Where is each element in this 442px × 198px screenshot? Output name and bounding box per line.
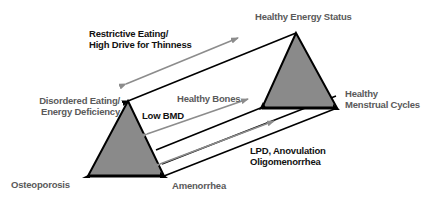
healthy-energy-status-label: Healthy Energy Status [255,11,352,22]
restrictive-eating-label: Restrictive Eating/ High Drive for Thinn… [89,28,192,50]
healthy-menstrual-line2: Menstrual Cycles [345,99,420,110]
right-tri-right-arrow-icon [333,104,340,110]
osteoporosis-label: Osteoporosis [11,179,70,190]
disordered-eating-label: Disordered Eating/ Energy Deficiency [22,95,120,117]
lpd-line2: Oligomenorrhea [250,156,326,167]
low-bmd-label: Low BMD [142,110,184,121]
restrictive-eating-line2: High Drive for Thinness [89,39,192,50]
restrictive-eating-line1: Restrictive Eating/ [89,28,192,39]
disordered-eating-line1: Disordered Eating/ [22,95,120,106]
disordered-eating-line2: Energy Deficiency [22,106,120,117]
right-triangle [259,33,340,110]
healthy-menstrual-line1: Healthy [345,88,420,99]
healthy-bones-label: Healthy Bones [177,93,240,104]
left-base-arrow-icon [82,174,90,178]
amenorrhea-label: Amenorrhea [172,180,226,191]
lpd-line1: LPD, Anovulation [250,145,326,156]
female-athlete-triad-diagram: Restrictive Eating/ High Drive for Thinn… [0,0,442,198]
healthy-menstrual-cycles-label: Healthy Menstrual Cycles [345,88,420,110]
lpd-anovulation-label: LPD, Anovulation Oligomenorrhea [250,145,326,167]
